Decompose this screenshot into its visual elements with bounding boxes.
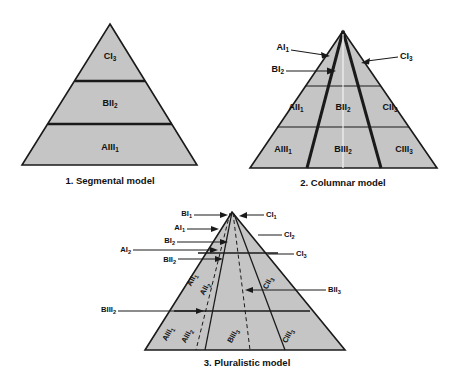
pyramid-models-figure: CI3 BII2 AIII1 1. Segmental model AI1 CI… xyxy=(0,0,452,372)
pyramid-3-callout-label-bi1: BI1 xyxy=(181,209,192,219)
model-2-columnar: AI1 CI3 BI2 AII1 BII2 CII3 AIII1 B xyxy=(250,31,437,188)
pyramid-2-callout-leader-ai1 xyxy=(291,50,324,55)
model-3-caption: 3. Pluralistic model xyxy=(204,357,291,368)
pyramid-3-callout-label-ai2: AI2 xyxy=(120,245,131,255)
pyramid-3-callout-label-ci1: CI1 xyxy=(266,210,277,220)
pyramid-2-callout-leader-ci3 xyxy=(367,57,398,61)
model-2-caption: 2. Columnar model xyxy=(300,177,386,188)
model-3-pluralistic: BI1 AI1 BI2 AI2 BII2 BIII2 xyxy=(101,209,345,368)
pyramid-2-callout-label-ai1: AI1 xyxy=(276,42,289,53)
pyramid-3-callout-label-bii2: BII2 xyxy=(163,255,176,265)
pyramid-3-callout-label-ai1: AI1 xyxy=(174,223,185,233)
pyramid-3-callout-arrow-bi1 xyxy=(220,212,228,218)
pyramid-3-callout-label-biii2: BIII2 xyxy=(101,305,116,315)
pyramid-3-callout-label-ci2: CI2 xyxy=(284,230,295,240)
pyramid-3-callout-label-bii3: BII3 xyxy=(328,285,341,295)
pyramid-3-callout-arrow-ai1 xyxy=(211,226,219,232)
pyramid-2-callout-label-ci3: CI3 xyxy=(400,51,413,62)
model-1-caption: 1. Segmental model xyxy=(65,175,154,186)
pyramid-3-callout-arrow-ci1 xyxy=(239,212,247,219)
model-1-segmental: CI3 BII2 AIII1 1. Segmental model xyxy=(22,24,197,186)
pyramid-2-callout-label-bi2: BI2 xyxy=(271,64,284,75)
pyramid-3-callout-label-ci3: CI3 xyxy=(296,249,307,259)
pyramid-2-cell-label-cii3: CII3 xyxy=(382,102,398,113)
pyramid-3-callout-label-bi2: BI2 xyxy=(164,236,175,246)
